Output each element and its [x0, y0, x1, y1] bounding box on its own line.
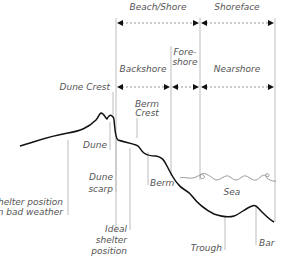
feature-label-dune: Dune	[83, 140, 107, 150]
shelter-label-ideal-2: shelter	[96, 235, 128, 245]
zone-label-shoreface: Shoreface	[214, 2, 260, 12]
zone-label-foreshore-2: shore	[172, 57, 198, 67]
zone-label-nearshore: Nearshore	[214, 64, 261, 74]
beach-profile-diagram: Beach/Shore Shoreface Backshore Fore- sh…	[0, 0, 284, 264]
nearshore-span-arrow	[201, 84, 274, 90]
feature-label-dune-scarp-1: Dune	[89, 172, 113, 182]
beach-shore-span-arrow	[117, 20, 199, 26]
backshore-span-arrow	[117, 84, 170, 90]
feature-label-berm-crest-2: Crest	[135, 108, 159, 118]
arrow-left-icon	[117, 20, 123, 26]
sea-surface-line	[180, 173, 276, 181]
feature-label-bar: Bar	[259, 238, 276, 248]
feature-label-sea: Sea	[224, 187, 241, 197]
arrow-left-icon	[172, 84, 178, 90]
shelter-label-ideal-3: position	[90, 246, 127, 256]
arrow-right-icon	[164, 84, 170, 90]
shelter-label-bad-weather-1: Shelter position	[0, 197, 63, 207]
shoreface-span-arrow	[201, 20, 274, 26]
shelter-label-ideal-1: Ideal	[105, 224, 127, 234]
feature-label-dune-crest: Dune Crest	[60, 82, 111, 92]
arrow-left-icon	[201, 20, 207, 26]
arrow-left-icon	[201, 84, 207, 90]
foreshore-span-arrow	[172, 84, 199, 90]
arrow-left-icon	[117, 84, 123, 90]
arrow-right-icon	[193, 84, 199, 90]
feature-label-dune-scarp-2: scarp	[88, 184, 113, 194]
arrow-right-icon	[268, 20, 274, 26]
feature-label-berm: Berm	[150, 178, 174, 188]
zone-label-foreshore-1: Fore-	[173, 47, 196, 57]
feature-label-trough: Trough	[191, 243, 222, 253]
zone-label-beach-shore: Beach/Shore	[129, 2, 187, 12]
arrow-right-icon	[193, 20, 199, 26]
shelter-label-bad-weather-2: in bad weather	[0, 207, 64, 217]
arrow-right-icon	[268, 84, 274, 90]
zone-label-backshore: Backshore	[120, 64, 167, 74]
